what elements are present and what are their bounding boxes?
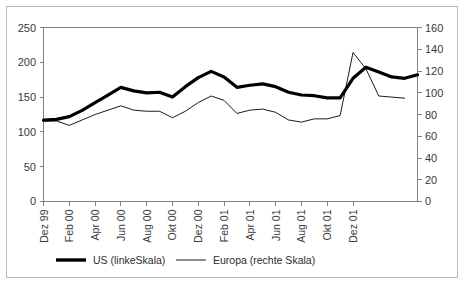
right-axis-labels: 160 140 120 100 80 60 40 20 0 [425, 22, 443, 208]
left-tick-label: 200 [18, 56, 36, 68]
right-tick-label: 40 [425, 152, 437, 164]
left-axis-labels: 250 200 150 100 50 0 [18, 22, 36, 208]
x-tick-label: Okt 00 [166, 209, 178, 240]
x-tick-label: Dez 00 [192, 209, 204, 242]
left-axis-ticks [40, 28, 44, 202]
right-tick-label: 80 [425, 109, 437, 121]
right-tick-label: 60 [425, 130, 437, 142]
x-tick-label: Dez 01 [347, 209, 359, 242]
x-tick-label: Okt 01 [321, 209, 333, 240]
x-axis-labels: Dez 99Feb 00Apr 00Jun 00Aug 00Okt 00Dez … [38, 209, 360, 242]
legend-label-europa: Europa (rechte Skala) [213, 254, 315, 266]
x-tick-label: Apr 01 [244, 209, 256, 240]
x-axis-ticks [44, 202, 354, 206]
x-tick-label: Feb 01 [218, 209, 230, 242]
right-tick-label: 140 [425, 43, 443, 55]
left-tick-label: 150 [18, 91, 36, 103]
right-tick-label: 20 [425, 174, 437, 186]
x-tick-label: Feb 00 [63, 209, 75, 242]
right-tick-label: 120 [425, 65, 443, 77]
right-axis-ticks [418, 28, 422, 202]
left-tick-label: 50 [24, 161, 36, 173]
x-tick-label: Jun 01 [270, 209, 282, 241]
chart-plot: 250 200 150 100 50 0 160 140 120 100 80 … [0, 0, 465, 286]
series-line-europa [44, 53, 405, 126]
series-line-us [44, 67, 418, 120]
chart-legend: US (linkeSkala) Europa (rechte Skala) [56, 254, 315, 266]
right-tick-label: 100 [425, 87, 443, 99]
x-tick-label: Dez 99 [38, 209, 50, 242]
left-tick-label: 250 [18, 22, 36, 34]
x-tick-label: Aug 00 [141, 209, 153, 242]
x-tick-label: Jun 00 [115, 209, 127, 241]
x-tick-label: Aug 01 [295, 209, 307, 242]
x-tick-label: Apr 00 [89, 209, 101, 240]
legend-label-us: US (linkeSkala) [93, 254, 165, 266]
right-tick-label: 160 [425, 22, 443, 34]
left-tick-label: 100 [18, 126, 36, 138]
chart-container: 250 200 150 100 50 0 160 140 120 100 80 … [0, 0, 465, 286]
right-tick-label: 0 [425, 195, 431, 207]
left-tick-label: 0 [30, 195, 36, 207]
